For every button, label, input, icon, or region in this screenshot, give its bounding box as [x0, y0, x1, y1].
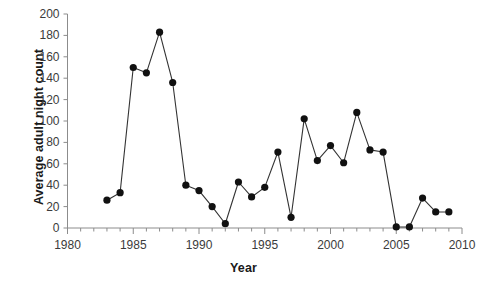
- data-point-1992: [222, 220, 229, 227]
- data-point-1995: [261, 184, 268, 191]
- data-point-1989: [182, 182, 189, 189]
- y-axis-ticks: [64, 14, 68, 228]
- data-point-1998: [301, 115, 308, 122]
- data-point-1996: [274, 148, 281, 155]
- data-point-1983: [103, 197, 110, 204]
- data-point-2000: [327, 142, 334, 149]
- data-point-1994: [248, 193, 255, 200]
- plot-area: [0, 0, 487, 284]
- data-point-2002: [353, 109, 360, 116]
- data-point-2005: [393, 223, 400, 230]
- data-point-1993: [235, 178, 242, 185]
- data-point-1987: [156, 29, 163, 36]
- data-point-1999: [314, 157, 321, 164]
- data-point-2003: [366, 146, 373, 153]
- axis-lines: [68, 14, 463, 228]
- data-point-2004: [380, 148, 387, 155]
- data-point-1988: [169, 79, 176, 86]
- line-chart: Average adult night count Year 020406080…: [0, 0, 487, 284]
- data-point-1990: [195, 187, 202, 194]
- series-markers: [103, 29, 452, 231]
- data-point-2009: [445, 208, 452, 215]
- data-point-2007: [419, 194, 426, 201]
- data-point-2006: [406, 223, 413, 230]
- data-point-1984: [117, 189, 124, 196]
- data-point-1985: [130, 64, 137, 71]
- data-point-1997: [287, 214, 294, 221]
- data-point-2008: [432, 208, 439, 215]
- x-axis-ticks: [68, 228, 463, 234]
- data-point-1986: [143, 69, 150, 76]
- series-line: [107, 32, 449, 227]
- data-point-2001: [340, 159, 347, 166]
- data-point-1991: [209, 203, 216, 210]
